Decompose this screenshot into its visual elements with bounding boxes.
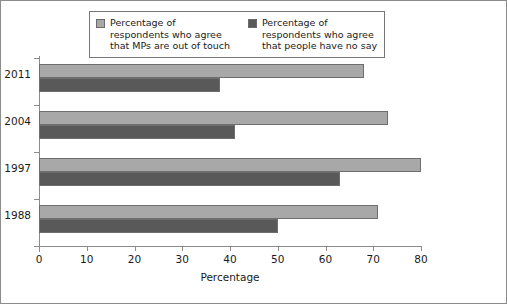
bar-2011-mps-out-of-touch: [39, 64, 364, 78]
legend-entry-mps-out-of-touch: Percentage of respondents who agree that…: [96, 17, 230, 52]
bar-2004-mps-out-of-touch: [39, 111, 388, 125]
category-label-1997: 1997: [4, 162, 31, 174]
legend-label-people-no-say: Percentage of respondents who agree that…: [262, 17, 377, 52]
x-axis-tick: [182, 246, 183, 251]
legend-swatch-dark: [248, 19, 257, 28]
bar-1997-mps-out-of-touch: [39, 158, 421, 172]
x-axis-tick-label: 60: [319, 253, 332, 265]
chart-legend: Percentage of respondents who agree that…: [89, 11, 385, 58]
bar-group-1997: 1997: [39, 152, 421, 199]
category-label-2011: 2011: [4, 68, 31, 80]
legend-entry-people-no-say: Percentage of respondents who agree that…: [248, 17, 377, 52]
x-axis-tick-label: 20: [128, 253, 141, 265]
x-axis-title: Percentage: [39, 271, 421, 283]
bar-1988-people-no-say: [39, 219, 278, 233]
x-axis-tick: [373, 246, 374, 251]
y-axis-tick: [34, 152, 39, 153]
bar-1988-mps-out-of-touch: [39, 205, 378, 219]
bar-group-2011: 2011: [39, 58, 421, 105]
y-axis-tick: [34, 199, 39, 200]
x-axis-tick-label: 80: [414, 253, 427, 265]
x-axis-tick: [421, 246, 422, 251]
y-axis-tick: [34, 58, 39, 59]
x-axis-tick-label: 0: [36, 253, 43, 265]
bar-1997-people-no-say: [39, 172, 340, 186]
legend-label-mps-out-of-touch: Percentage of respondents who agree that…: [110, 17, 230, 52]
bar-group-2004: 2004: [39, 105, 421, 152]
chart-figure: Percentage of respondents who agree that…: [0, 0, 507, 304]
legend-swatch-light: [96, 19, 105, 28]
category-label-2004: 2004: [4, 115, 31, 127]
bar-2004-people-no-say: [39, 125, 235, 139]
y-axis-tick: [34, 105, 39, 106]
x-axis-tick-label: 50: [271, 253, 284, 265]
category-label-1988: 1988: [4, 209, 31, 221]
bar-2011-people-no-say: [39, 78, 220, 92]
x-axis-tick-label: 30: [176, 253, 189, 265]
plot-area: 2011 2004 1997 1988 Percentage 010203040…: [39, 58, 421, 246]
x-axis-tick: [39, 246, 40, 251]
bar-group-1988: 1988: [39, 199, 421, 246]
x-axis-tick: [326, 246, 327, 251]
x-axis-tick-label: 70: [367, 253, 380, 265]
x-axis-tick-label: 40: [223, 253, 236, 265]
x-axis-tick: [135, 246, 136, 251]
x-axis-tick: [278, 246, 279, 251]
x-axis-tick: [87, 246, 88, 251]
x-axis-tick: [230, 246, 231, 251]
x-axis-tick-label: 10: [80, 253, 93, 265]
